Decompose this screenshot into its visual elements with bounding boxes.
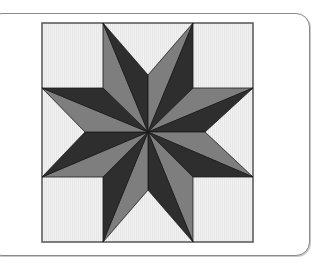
star-quilt-block: [0, 0, 324, 265]
